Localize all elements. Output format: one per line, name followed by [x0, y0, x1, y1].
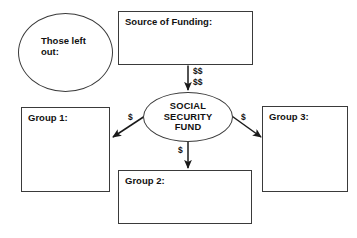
node-group-3[interactable]: Group 3:	[262, 106, 348, 192]
node-group-2-label: Group 2:	[125, 176, 165, 187]
node-those-left-out[interactable]: Those left out:	[18, 13, 113, 92]
node-source-of-funding-label: Source of Funding:	[125, 17, 212, 28]
node-group-1-label: Group 1:	[28, 113, 68, 124]
node-source-of-funding[interactable]: Source of Funding:	[118, 11, 253, 65]
flow-label-funding-to-fund: $$ $$	[193, 66, 202, 87]
node-group-1[interactable]: Group 1:	[21, 107, 110, 192]
node-group-3-label: Group 3:	[269, 112, 309, 123]
node-social-security-fund[interactable]: SOCIAL SECURITY FUND	[143, 92, 233, 142]
node-social-security-fund-label: SOCIAL SECURITY FUND	[164, 101, 213, 134]
flow-label-fund-to-group-1: $	[128, 112, 133, 123]
node-those-left-out-label: Those left out:	[41, 36, 86, 58]
diagram-canvas: Those left out: Source of Funding: SOCIA…	[0, 0, 357, 238]
flow-label-fund-to-group-2: $	[178, 145, 183, 156]
flow-label-fund-to-group-3: $	[241, 112, 246, 123]
node-group-2[interactable]: Group 2:	[118, 170, 252, 224]
